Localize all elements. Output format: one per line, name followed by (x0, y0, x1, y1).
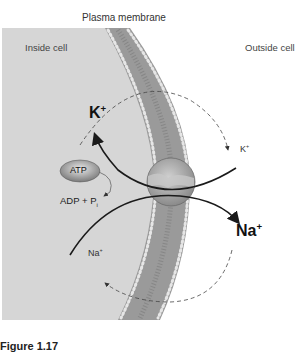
pi-subscript: i (97, 202, 98, 208)
na-ion-charge: + (256, 221, 262, 232)
adp-pi-label: ADP + Pi (60, 195, 98, 208)
page-title: Plasma membrane (82, 12, 166, 23)
adp-pi-text: ADP + P (60, 195, 97, 206)
k-ion-outside-label: K+ (240, 144, 249, 154)
k-ion-symbol: K (89, 104, 101, 121)
figure-caption: Figure 1.17 (0, 340, 58, 352)
na-ion-symbol: Na (88, 248, 100, 258)
na-ion-symbol: Na (236, 222, 256, 239)
outside-cell-label: Outside cell (245, 42, 295, 53)
na-ion-outside-label: Na+ (236, 222, 262, 240)
k-ion-charge: + (246, 143, 249, 149)
inside-cell-label: Inside cell (25, 42, 67, 53)
k-ion-charge: + (101, 103, 107, 114)
na-ion-charge: + (100, 247, 103, 253)
na-ion-inside-label: Na+ (88, 248, 103, 258)
k-ion-inside-label: K+ (89, 104, 106, 122)
atp-label: ATP (70, 165, 87, 175)
